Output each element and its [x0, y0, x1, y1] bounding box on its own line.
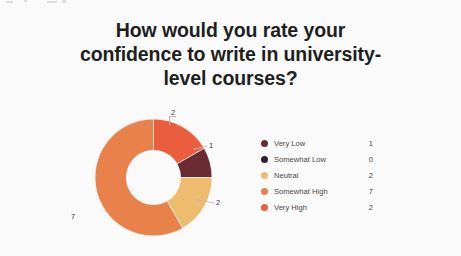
data-label-neutral: 2	[216, 198, 220, 207]
legend-item-label: Very High	[274, 203, 363, 212]
legend-item[interactable]: Somewhat High7	[261, 183, 373, 199]
legend-item-label: Very Low	[274, 139, 363, 148]
chart-figure: How would you rate your confidence to wr…	[0, 0, 461, 256]
legend-item-label: Neutral	[274, 171, 363, 180]
legend-swatch-icon	[261, 204, 268, 211]
data-label-very-low: 1	[209, 141, 213, 150]
data-label-very-high: 2	[171, 108, 175, 117]
legend-item-value: 2	[363, 171, 373, 180]
legend-swatch-icon	[261, 140, 268, 147]
chart-legend: Very Low1Somewhat Low0Neutral2Somewhat H…	[261, 135, 373, 215]
leader-line-very-high	[169, 116, 170, 125]
legend-swatch-icon	[261, 188, 268, 195]
legend-item-value: 7	[363, 187, 373, 196]
legend-swatch-icon	[261, 172, 268, 179]
legend-swatch-icon	[261, 156, 268, 163]
data-label-somewhat-high: 7	[71, 212, 75, 221]
donut-hole	[126, 150, 181, 205]
legend-item[interactable]: Very High2	[261, 199, 373, 215]
chart-title: How would you rate your confidence to wr…	[14, 18, 447, 90]
donut-chart-svg	[95, 119, 212, 236]
legend-item-label: Somewhat Low	[274, 155, 363, 164]
legend-item[interactable]: Somewhat Low0	[261, 151, 373, 167]
legend-item-value: 0	[363, 155, 373, 164]
legend-item[interactable]: Very Low1	[261, 135, 373, 151]
legend-item-label: Somewhat High	[274, 187, 363, 196]
legend-item[interactable]: Neutral2	[261, 167, 373, 183]
donut-chart	[95, 119, 212, 236]
legend-item-value: 2	[363, 203, 373, 212]
legend-item-value: 1	[363, 139, 373, 148]
